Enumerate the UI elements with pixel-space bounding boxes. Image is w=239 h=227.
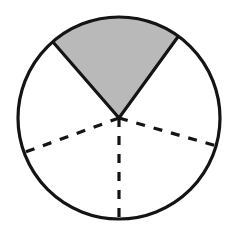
figure-container: [0, 0, 239, 227]
circle-sectors-diagram: [0, 0, 239, 227]
